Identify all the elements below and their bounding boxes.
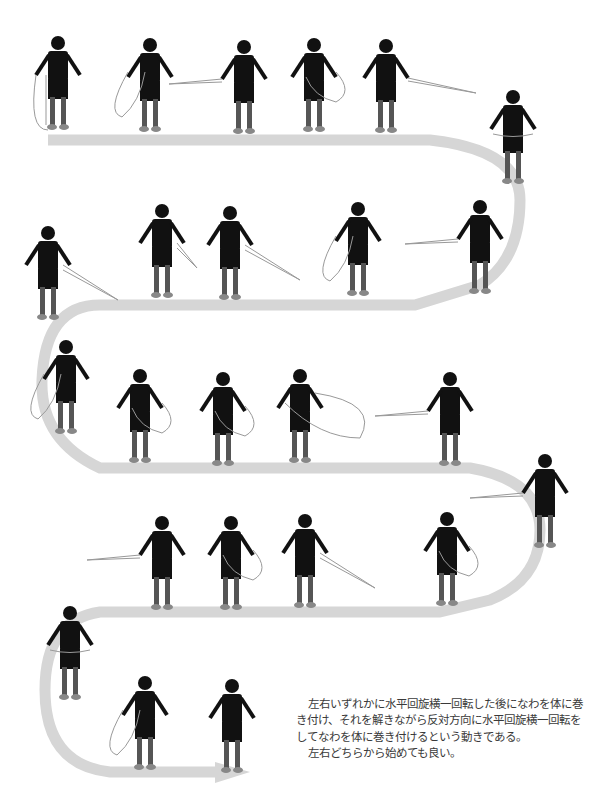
jump-rope bbox=[320, 553, 375, 588]
cropped-caption bbox=[42, 0, 272, 2]
jumper-figure bbox=[118, 369, 171, 463]
jumper-figure bbox=[375, 372, 472, 466]
jumper-figure bbox=[405, 200, 502, 294]
sequence-illustration bbox=[0, 0, 598, 809]
jumper-figure bbox=[208, 206, 300, 300]
movement-path bbox=[42, 140, 540, 772]
jumper-figure bbox=[140, 204, 197, 298]
jump-rope bbox=[87, 555, 140, 560]
description-paragraph-2: 左右どちらから始めても良い。 bbox=[296, 745, 586, 761]
jump-rope bbox=[470, 493, 523, 498]
description-paragraph-1: 左右いずれかに水平回旋横一回転した後になわを体に巻き付け、それを解きながら反対方… bbox=[296, 696, 586, 745]
jump-rope bbox=[63, 265, 118, 300]
arrow-head-icon bbox=[215, 762, 250, 783]
jumper-figure bbox=[169, 40, 266, 134]
jump-rope bbox=[245, 245, 300, 280]
jumper-figure bbox=[283, 514, 375, 608]
jumper-figure bbox=[34, 36, 80, 130]
jumper-figure bbox=[364, 39, 476, 133]
rope-sequence-figure: 左右いずれかに水平回旋横一回転した後になわを体に巻き付け、それを解きながら反対方… bbox=[0, 0, 598, 809]
jump-rope bbox=[375, 411, 428, 416]
jump-rope bbox=[169, 79, 222, 84]
jumper-figure bbox=[110, 676, 167, 770]
jumper-figure bbox=[210, 679, 254, 773]
jump-rope bbox=[405, 239, 458, 244]
jumper-figure bbox=[115, 38, 172, 132]
jump-rope bbox=[408, 78, 476, 93]
jump-rope bbox=[34, 75, 48, 130]
jumper-figure bbox=[323, 202, 380, 296]
jumper-figure bbox=[292, 38, 345, 132]
description-text: 左右いずれかに水平回旋横一回転した後になわを体に巻き付け、それを解きながら反対方… bbox=[296, 696, 586, 762]
jump-rope bbox=[177, 243, 197, 268]
jumper-figure bbox=[87, 516, 184, 610]
jumper-figure bbox=[425, 512, 478, 606]
figure-group bbox=[26, 36, 567, 773]
jumper-figure bbox=[278, 369, 365, 463]
jumper-figure bbox=[209, 516, 262, 610]
jumper-figure bbox=[201, 372, 254, 466]
